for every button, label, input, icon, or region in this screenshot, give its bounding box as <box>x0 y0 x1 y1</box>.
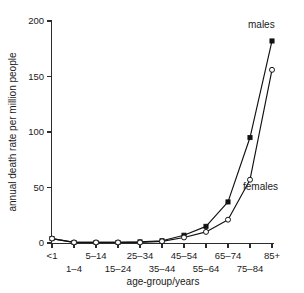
series-line-females <box>52 70 272 243</box>
y-tick-label: 0 <box>39 237 44 248</box>
marker-males <box>204 224 208 228</box>
marker-males <box>248 135 252 139</box>
y-tick-marks <box>47 21 52 243</box>
x-tick-label: <1 <box>47 250 58 261</box>
series-lines <box>52 41 272 242</box>
y-axis-title: annual death rate per million people <box>7 52 18 211</box>
marker-females <box>270 67 275 72</box>
marker-males <box>226 200 230 204</box>
x-tick-label: 55–64 <box>193 263 219 274</box>
marker-females <box>116 240 121 245</box>
series-annotations: malesfemales <box>243 19 278 192</box>
marker-males <box>270 39 274 43</box>
marker-females <box>182 235 187 240</box>
x-tick-label: 75–84 <box>237 263 263 274</box>
x-tick-label: 45–54 <box>171 250 197 261</box>
x-tick-label: 35–44 <box>149 263 175 274</box>
x-tick-label: 1–4 <box>66 263 82 274</box>
x-tick-label: 5–14 <box>85 250 106 261</box>
series-line-males <box>52 41 272 242</box>
y-tick-labels: 050100150200 <box>28 15 44 248</box>
marker-females <box>50 236 55 241</box>
x-axis-title: age-group/years <box>127 276 200 287</box>
marker-females <box>160 239 165 244</box>
x-tick-label: 25–34 <box>127 250 153 261</box>
x-tick-label: 85+ <box>264 250 281 261</box>
marker-females <box>226 217 231 222</box>
y-tick-label: 50 <box>33 182 44 193</box>
marker-females <box>204 229 209 234</box>
x-tick-label: 65–74 <box>215 250 241 261</box>
marker-females <box>94 240 99 245</box>
chart-figure: 050100150200 <11–45–1415–2425–3435–4445–… <box>0 0 304 293</box>
marker-females <box>72 240 77 245</box>
line-chart: 050100150200 <11–45–1415–2425–3435–4445–… <box>0 0 304 293</box>
y-tick-label: 200 <box>28 15 44 26</box>
y-tick-label: 150 <box>28 71 44 82</box>
series-label-males: males <box>248 19 275 30</box>
y-tick-label: 100 <box>28 126 44 137</box>
series-label-females: females <box>243 181 278 192</box>
series-markers <box>50 39 275 245</box>
marker-females <box>138 240 143 245</box>
x-tick-labels: <11–45–1415–2425–3435–4445–5455–6465–747… <box>47 250 281 274</box>
x-tick-label: 15–24 <box>105 263 131 274</box>
